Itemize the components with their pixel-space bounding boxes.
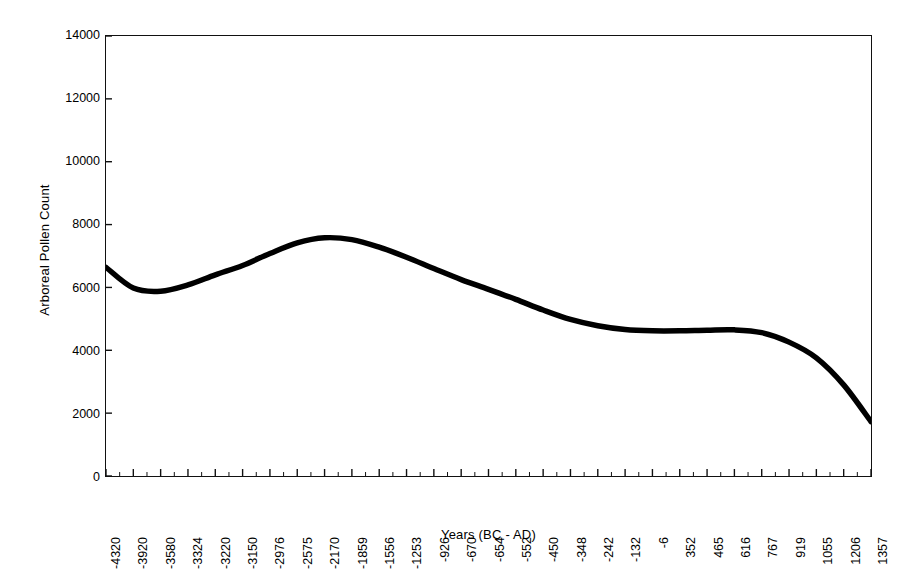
y-tick-label: 8000 xyxy=(54,218,100,231)
y-axis-ticks xyxy=(106,36,112,476)
y-tick-label: 2000 xyxy=(54,408,100,421)
x-axis-ticks xyxy=(106,469,871,476)
y-tick-label: 14000 xyxy=(54,29,100,42)
y-tick-label: 12000 xyxy=(54,92,100,105)
x-axis-title: Years (BC - AD) xyxy=(105,527,872,542)
y-tick-label: 6000 xyxy=(54,281,100,294)
data-series-line xyxy=(106,238,871,422)
plot-svg xyxy=(106,36,871,476)
y-tick-label: 10000 xyxy=(54,155,100,168)
plot-area xyxy=(105,35,872,477)
y-axis-tick-labels: 02000400060008000100001200014000 xyxy=(50,0,100,560)
y-tick-label: 4000 xyxy=(54,344,100,357)
y-tick-label: 0 xyxy=(54,471,100,484)
x-tick-label-text: 1357 xyxy=(877,537,890,565)
